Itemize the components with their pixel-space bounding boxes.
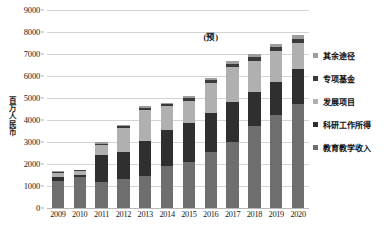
bar-column[interactable] <box>248 54 260 208</box>
y-axis-label: 4000 <box>24 115 40 125</box>
bar-segment[interactable] <box>183 162 195 208</box>
y-axis-tick <box>41 164 44 165</box>
bar-segment[interactable] <box>248 92 260 126</box>
legend-swatch-icon <box>313 122 318 127</box>
x-axis-tick-labels: 2009201020112012201320142015201620172018… <box>47 210 309 226</box>
bar-segment[interactable] <box>95 145 107 155</box>
plot-area: (预) <box>47 10 309 208</box>
x-axis-label: 2009 <box>50 210 65 219</box>
legend-label: 科研工作所得 <box>323 119 372 130</box>
bar-segment[interactable] <box>205 152 217 208</box>
bar-column[interactable] <box>117 125 129 208</box>
legend-item[interactable]: 科研工作所得 <box>313 113 390 136</box>
legend-item[interactable]: 专项基金 <box>313 67 390 90</box>
y-axis-tick <box>41 98 44 99</box>
bar-segment[interactable] <box>248 126 260 209</box>
y-axis-label: 1000 <box>24 181 40 191</box>
x-axis-label: 2014 <box>159 210 174 219</box>
bar-segment[interactable] <box>74 177 86 208</box>
bar-column[interactable] <box>270 44 282 208</box>
y-axis-label: 0 <box>36 203 40 213</box>
bar-segment[interactable] <box>270 115 282 208</box>
y-axis-label: 5000 <box>24 93 40 103</box>
bar-column[interactable] <box>52 171 64 208</box>
y-axis-tick <box>41 208 44 209</box>
bar-column[interactable] <box>183 96 195 208</box>
bar-segment[interactable] <box>161 106 173 130</box>
y-axis-tick <box>41 142 44 143</box>
legend-label: 教育教学收入 <box>323 142 372 153</box>
bar-segment[interactable] <box>117 179 129 208</box>
x-axis-label: 2016 <box>203 210 218 219</box>
legend-label: 专项基金 <box>323 73 355 84</box>
legend-item[interactable]: 其余途径 <box>313 44 390 67</box>
bar-segment[interactable] <box>270 82 282 115</box>
y-axis-tick <box>41 120 44 121</box>
bar-series-group <box>47 10 309 208</box>
x-axis-label: 2019 <box>269 210 284 219</box>
chart-legend: 其余途径专项基金发展项目科研工作所得教育教学收入 <box>313 44 390 159</box>
legend-label: 其余途径 <box>323 50 355 61</box>
bar-segment[interactable] <box>205 83 217 114</box>
bar-column[interactable] <box>292 35 304 208</box>
bar-segment[interactable] <box>95 182 107 208</box>
bar-segment[interactable] <box>270 51 282 81</box>
y-axis-tick-labels: 0100020003000400050006000700080009000 <box>0 10 45 208</box>
y-axis-tick <box>41 76 44 77</box>
bar-segment[interactable] <box>292 43 304 69</box>
bar-segment[interactable] <box>117 128 129 152</box>
x-axis-label: 2010 <box>72 210 87 219</box>
bar-column[interactable] <box>205 78 217 208</box>
y-axis-label: 9000 <box>24 5 40 15</box>
bar-segment[interactable] <box>226 142 238 208</box>
y-axis-label: 8000 <box>24 27 40 37</box>
x-axis-label: 2012 <box>116 210 131 219</box>
bar-segment[interactable] <box>139 110 151 141</box>
y-axis-label: 6000 <box>24 71 40 81</box>
bar-segment[interactable] <box>226 67 238 102</box>
bar-segment[interactable] <box>226 102 238 142</box>
legend-label: 发展项目 <box>323 96 355 107</box>
chart-container: 百万人民币 0100020003000400050006000700080009… <box>0 0 390 240</box>
x-axis-label: 2018 <box>247 210 262 219</box>
x-axis-label: 2011 <box>94 210 109 219</box>
bar-column[interactable] <box>161 103 173 208</box>
bar-segment[interactable] <box>161 130 173 167</box>
x-axis-label: 2020 <box>290 210 305 219</box>
legend-swatch-icon <box>313 76 318 81</box>
bar-segment[interactable] <box>139 141 151 176</box>
legend-item[interactable]: 发展项目 <box>313 90 390 113</box>
bar-column[interactable] <box>74 170 86 208</box>
x-axis-label: 2015 <box>181 210 196 219</box>
y-axis-tick <box>41 186 44 187</box>
bar-segment[interactable] <box>248 61 260 92</box>
bar-segment[interactable] <box>292 104 304 208</box>
bar-segment[interactable] <box>205 113 217 152</box>
gridline <box>47 208 309 209</box>
y-axis-tick <box>41 10 44 11</box>
bar-segment[interactable] <box>292 69 304 104</box>
chart-annotation: (预) <box>203 30 218 42</box>
y-axis-label: 2000 <box>24 159 40 169</box>
bar-column[interactable] <box>226 61 238 208</box>
legend-item[interactable]: 教育教学收入 <box>313 136 390 159</box>
y-axis-label: 7000 <box>24 49 40 59</box>
bar-segment[interactable] <box>52 181 64 208</box>
legend-swatch-icon <box>313 53 318 58</box>
y-axis-label: 3000 <box>24 137 40 147</box>
bar-segment[interactable] <box>183 123 195 162</box>
bar-segment[interactable] <box>95 155 107 182</box>
y-axis-tick <box>41 32 44 33</box>
x-axis-label: 2013 <box>138 210 153 219</box>
bar-column[interactable] <box>139 106 151 208</box>
legend-swatch-icon <box>313 99 318 104</box>
bar-segment[interactable] <box>117 152 129 180</box>
bar-column[interactable] <box>95 142 107 208</box>
x-axis-label: 2017 <box>225 210 240 219</box>
y-axis-tick <box>41 54 44 55</box>
bar-segment[interactable] <box>183 101 195 123</box>
bar-segment[interactable] <box>139 176 151 208</box>
bar-segment[interactable] <box>161 166 173 208</box>
legend-swatch-icon <box>313 145 318 150</box>
